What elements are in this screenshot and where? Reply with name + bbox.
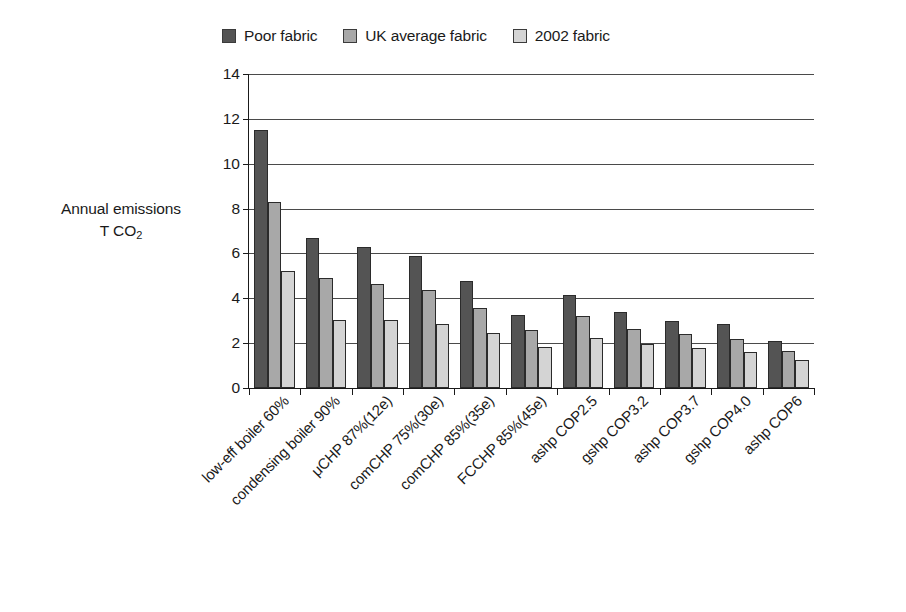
y-axis-title-line1: Annual emissions bbox=[61, 200, 181, 217]
x-axis-label-text: comCHP 85%(35e) bbox=[396, 392, 497, 493]
legend-item: UK average fabric bbox=[343, 27, 487, 45]
legend-item: Poor fabric bbox=[222, 27, 317, 45]
x-axis-label-text: low-eff boiler 60% bbox=[198, 392, 292, 486]
y-axis-tick-label: 12 bbox=[223, 110, 240, 128]
y-axis-title-line2: T CO2 bbox=[32, 220, 210, 242]
chart-legend: Poor fabricUK average fabric2002 fabric bbox=[222, 27, 610, 45]
y-axis-tick-label: 4 bbox=[231, 289, 240, 307]
y-axis-tick-label: 0 bbox=[231, 379, 240, 397]
legend-swatch-icon bbox=[513, 29, 527, 43]
emissions-bar-chart: Poor fabricUK average fabric2002 fabric … bbox=[0, 0, 906, 612]
y-axis-tick-label: 2 bbox=[231, 334, 240, 352]
legend-swatch-icon bbox=[343, 29, 357, 43]
bar bbox=[281, 271, 295, 388]
y-axis-tick-label: 10 bbox=[223, 155, 240, 173]
legend-swatch-icon bbox=[222, 29, 236, 43]
bar bbox=[268, 202, 282, 388]
y-axis-title: Annual emissions T CO2 bbox=[32, 198, 210, 243]
x-axis-labels: low-eff boiler 60%condensing boiler 90%μ… bbox=[248, 392, 848, 592]
legend-item-label: 2002 fabric bbox=[535, 27, 610, 45]
y-axis-tick-label: 14 bbox=[223, 65, 240, 83]
legend-item-label: Poor fabric bbox=[244, 27, 317, 45]
legend-item-label: UK average fabric bbox=[365, 27, 487, 45]
x-axis-label-text: comCHP 75%(30e) bbox=[345, 392, 446, 493]
x-axis-label-text: FCCHP 85%(45e) bbox=[453, 392, 548, 487]
y-axis-title-subscript: 2 bbox=[136, 229, 142, 241]
y-axis-tick-label: 6 bbox=[231, 244, 240, 262]
bar-group bbox=[254, 74, 295, 388]
bar bbox=[254, 130, 268, 388]
legend-item: 2002 fabric bbox=[513, 27, 610, 45]
y-axis-tick-label: 8 bbox=[231, 200, 240, 218]
y-axis-title-unit: T CO bbox=[100, 222, 136, 239]
